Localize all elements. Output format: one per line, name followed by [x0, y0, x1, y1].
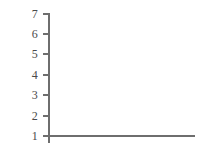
- chart-container: 7 6 5 4 3 2 1: [0, 0, 202, 157]
- plot-area: [50, 13, 195, 135]
- y-tick-label-1: 1: [0, 130, 38, 142]
- y-tick-label-6: 6: [0, 28, 38, 40]
- y-tick-label-2: 2: [0, 110, 38, 122]
- y-tick-label-3: 3: [0, 89, 38, 101]
- y-tick-label-7: 7: [0, 8, 38, 20]
- x-axis-baseline: [48, 135, 195, 137]
- y-tick-label-5: 5: [0, 48, 38, 60]
- y-tick-label-4: 4: [0, 69, 38, 81]
